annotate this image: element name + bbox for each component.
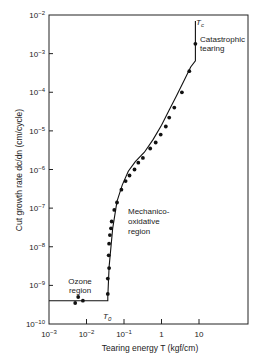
data-point [141, 156, 145, 160]
tick-label: 10−8 [29, 242, 45, 252]
data-point [112, 208, 116, 212]
x-axis-label: Tearing energy T (kgf/cm) [102, 343, 199, 353]
data-point [107, 242, 111, 246]
data-point [106, 292, 110, 296]
curve-path [49, 21, 195, 301]
data-point [180, 90, 184, 94]
tick-label: 10−9 [29, 280, 45, 290]
tick-label: 10−6 [29, 165, 45, 175]
data-point [120, 188, 124, 192]
tick-label: 10−3 [29, 49, 45, 59]
tick-label: 10−10 [26, 319, 46, 329]
tick-label: 10 [195, 330, 204, 339]
ozone-label-line1: Ozone [68, 277, 92, 286]
tick-label: 10−2 [29, 10, 45, 20]
catastrophic-label-line2: tearing [200, 44, 224, 53]
data-point [115, 201, 119, 205]
data-point [172, 106, 176, 110]
data-point [187, 69, 191, 73]
fitted-curve [49, 21, 195, 301]
data-point [109, 226, 113, 230]
data-point [124, 179, 128, 183]
data-point [159, 133, 163, 137]
data-point [194, 42, 198, 46]
mech-label-line2: oxidative [128, 217, 160, 226]
data-point [110, 220, 114, 224]
data-point [107, 253, 111, 257]
t0-label: T0 [103, 312, 112, 322]
data-point [128, 174, 132, 178]
data-point [133, 168, 137, 172]
data-point [107, 266, 111, 270]
tick-label: 10−1 [116, 329, 132, 339]
data-point [81, 299, 85, 303]
tick-label: 10−7 [29, 203, 45, 213]
tc-label: Tc [196, 18, 204, 28]
tick-label: 10−5 [29, 126, 45, 136]
data-point [76, 295, 80, 299]
tick-label: 1 [159, 330, 164, 339]
data-point [106, 277, 110, 281]
data-point [136, 161, 140, 165]
ozone-label-line2: region [69, 286, 91, 295]
data-point [148, 147, 152, 151]
data-point [167, 116, 171, 120]
mech-label-line3: region [128, 227, 150, 236]
cut-growth-chart: 10−1010−910−810−710−610−510−410−310−2 10… [0, 0, 262, 362]
tick-label: 10−4 [29, 87, 45, 97]
catastrophic-label-line1: Catastrophic [200, 35, 245, 44]
data-point [154, 141, 158, 145]
t0-annotation: T0 [103, 312, 112, 322]
y-axis-title: Cut growth rate dc/dn (cm/cycle) [14, 109, 24, 232]
y-axis-label: Cut growth rate dc/dn (cm/cycle) [14, 109, 24, 232]
tick-label: 10−3 [41, 329, 57, 339]
tick-label: 10−2 [79, 329, 95, 339]
data-point [164, 125, 168, 129]
x-axis-ticks: 10−310−210−1110 [41, 319, 204, 339]
data-point [73, 301, 77, 305]
mech-label-line1: Mechanico- [128, 207, 170, 216]
data-point [108, 233, 112, 237]
data-points [73, 42, 197, 305]
tc-annotation: Tc [196, 18, 204, 28]
